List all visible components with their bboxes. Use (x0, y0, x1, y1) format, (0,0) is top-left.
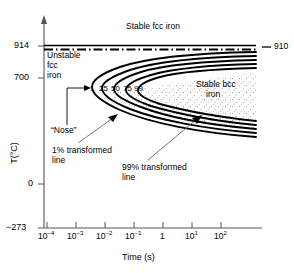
annotation-ninetynine-percent-line2: line (122, 173, 135, 183)
x-tick-1e-4-exponent: −4 (47, 230, 54, 236)
x-tick-1e2-exponent: 2 (223, 230, 226, 236)
equilibrium-right-label-910: 910 (274, 42, 288, 52)
one-percent-leader (78, 114, 118, 143)
annotation-nose: “Nose” (51, 126, 77, 136)
y-tick-0: 0 (28, 178, 33, 188)
x-tick-1-mantissa: 1 (160, 231, 165, 241)
curve-label-50: 50 (111, 84, 120, 93)
y-axis (38, 15, 47, 228)
x-tick-1e-4: 10−4 (38, 231, 54, 241)
nose-leader (67, 85, 91, 125)
equilibrium-line (44, 46, 271, 50)
region-label-stable-bcc-line2: iron (206, 90, 220, 100)
x-axis-label: Time (s) (122, 252, 155, 262)
x-tick-1e-3-exponent: −3 (76, 230, 83, 236)
x-tick-1e-2-exponent: −2 (105, 230, 112, 236)
x-tick-1e2: 102 (214, 231, 227, 241)
annotation-one-percent-line2: line (52, 156, 65, 166)
ttt-diagram-figure: 914 700 0 −273 T(°C) 10−4 10−3 10−2 10−1… (0, 0, 294, 273)
y-axis-label: T(°C) (9, 128, 19, 178)
x-tick-1e1: 101 (185, 231, 198, 241)
x-tick-1e-1: 10−1 (125, 231, 141, 241)
region-label-stable-fcc: Stable fcc iron (126, 22, 180, 32)
x-tick-1: 1 (160, 231, 165, 241)
x-tick-1e1-exponent: 1 (194, 230, 197, 236)
y-tick-914: 914 (14, 40, 29, 50)
x-tick-1e-3: 10−3 (67, 231, 83, 241)
x-tick-1e-2: 10−2 (96, 231, 112, 241)
y-tick-minus-273: −273 (6, 222, 26, 232)
x-tick-1e-1-exponent: −1 (134, 230, 141, 236)
region-label-unstable-fcc-line3: iron (47, 71, 61, 81)
y-tick-700: 700 (14, 72, 29, 82)
x-axis (44, 222, 262, 228)
curve-label-25: 25 (99, 84, 108, 93)
curve-label-99: 99 (134, 84, 143, 93)
curve-label-1: 1 (90, 84, 94, 93)
curve-label-75: 75 (123, 84, 132, 93)
